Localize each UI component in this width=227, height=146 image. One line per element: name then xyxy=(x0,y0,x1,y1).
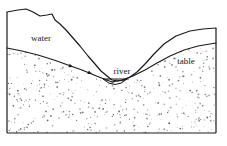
label-water: water xyxy=(31,33,51,43)
figure-container: water table river xyxy=(0,0,227,146)
label-table: table xyxy=(177,56,195,66)
label-river: river xyxy=(114,66,131,76)
cross-section-diagram: water table river xyxy=(0,0,227,146)
